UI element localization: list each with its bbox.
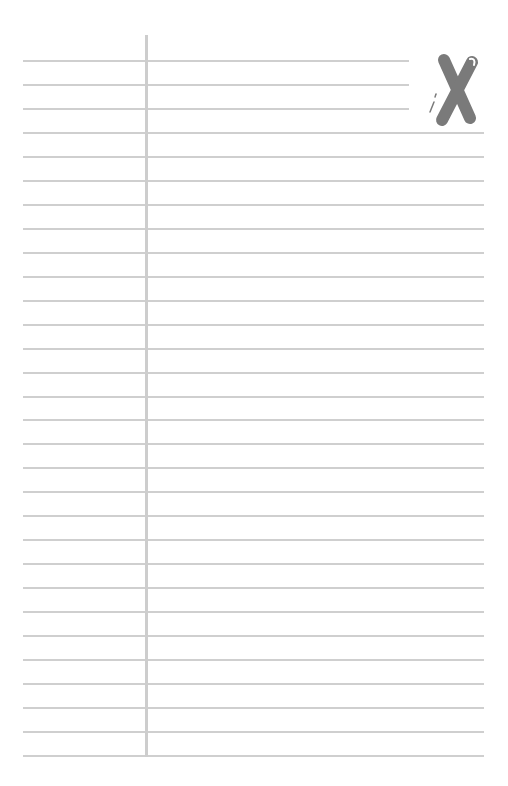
ruled-line bbox=[23, 60, 409, 62]
ruled-line bbox=[23, 611, 484, 613]
ruled-line bbox=[23, 443, 484, 445]
ruled-line bbox=[23, 84, 409, 86]
ruled-line bbox=[23, 276, 484, 278]
ruled-line bbox=[23, 108, 409, 110]
ruled-line bbox=[23, 228, 484, 230]
ruled-line bbox=[23, 731, 484, 733]
ruled-line bbox=[23, 300, 484, 302]
ruled-line bbox=[23, 683, 484, 685]
ruled-line bbox=[23, 132, 484, 134]
ruled-line bbox=[23, 396, 484, 398]
ruled-line bbox=[23, 156, 484, 158]
margin-line bbox=[145, 35, 148, 757]
ruled-line bbox=[23, 515, 484, 517]
ruled-line bbox=[23, 755, 484, 757]
ruled-line bbox=[23, 587, 484, 589]
ruled-line bbox=[23, 180, 484, 182]
ruled-line bbox=[23, 563, 484, 565]
ruled-line bbox=[23, 252, 484, 254]
x-mark-icon bbox=[424, 50, 484, 130]
ruled-line bbox=[23, 467, 484, 469]
ruled-line bbox=[23, 372, 484, 374]
ruled-line bbox=[23, 419, 484, 421]
ruled-line bbox=[23, 348, 484, 350]
ruled-line bbox=[23, 491, 484, 493]
ruled-line bbox=[23, 707, 484, 709]
ruled-line bbox=[23, 635, 484, 637]
ruled-line bbox=[23, 204, 484, 206]
ruled-line bbox=[23, 324, 484, 326]
ruled-line bbox=[23, 539, 484, 541]
ruled-line bbox=[23, 659, 484, 661]
